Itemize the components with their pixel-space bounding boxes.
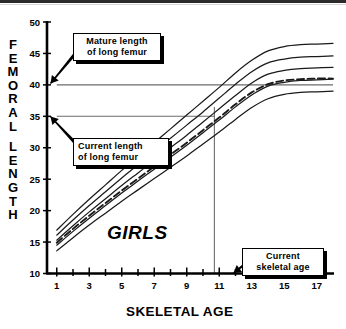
y-tick-label: 40	[20, 79, 40, 90]
x-tick-label: 15	[276, 280, 292, 291]
reference-lines-group	[57, 85, 333, 274]
x-tick-label: 13	[244, 280, 260, 291]
y-tick-label: 25	[20, 174, 40, 185]
y-tick-label: 10	[20, 268, 40, 279]
y-axis-title: FEMORAL LENGTH	[4, 38, 22, 222]
x-tick-label: 5	[114, 280, 130, 291]
percentile-curve-5	[57, 91, 333, 251]
callout-current-length: Current length of long femur	[73, 138, 169, 166]
y-tick-label: 30	[20, 142, 40, 153]
girls-label: GIRLS	[107, 222, 168, 244]
y-tick-label: 45	[20, 48, 40, 59]
x-tick-label: 7	[146, 280, 162, 291]
y-tick-label: 15	[20, 237, 40, 248]
y-axis-title-letter: R	[4, 92, 22, 106]
x-tick-label: 1	[49, 280, 65, 291]
x-axis-title: SKELETAL AGE	[126, 304, 233, 319]
chart-figure: FEMORAL LENGTH SKELETAL AGE 101520253035…	[0, 0, 346, 329]
x-tick-label: 3	[81, 280, 97, 291]
x-tick-label: 11	[211, 280, 227, 291]
y-tick-label: 35	[20, 111, 40, 122]
x-tick-label: 17	[309, 280, 325, 291]
callout-current-skeletal-age: Current skeletal age	[242, 248, 324, 276]
y-tick-label: 50	[20, 17, 40, 28]
y-axis-title-letter: M	[4, 65, 22, 79]
callout-mature-length: Mature length of long femur	[73, 33, 161, 61]
y-tick-label: 20	[20, 205, 40, 216]
x-tick-label: 9	[179, 280, 195, 291]
y-axis-title-letter: E	[4, 154, 22, 168]
